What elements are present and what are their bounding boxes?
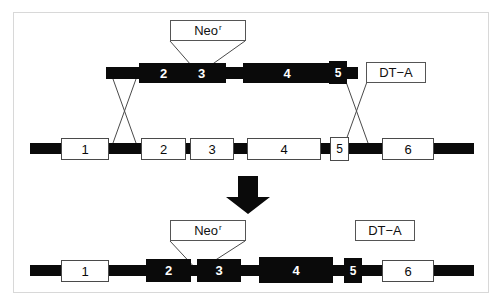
vector-exon-4-label: 4 [283,67,290,80]
dt-a-label-top: DT−A [379,65,413,80]
allele-exon-3-label: 3 [215,264,222,277]
locus-exon-1: 1 [61,138,109,160]
allele-exon-2-label: 2 [165,264,172,277]
allele-exon-6-label: 6 [404,264,411,279]
vector-exon-3-label: 3 [198,67,205,80]
neo-label-top: Neo [194,23,218,38]
locus-exon-3: 3 [190,138,234,160]
vector-exon-5: 5 [329,61,347,84]
locus-exon-2-label: 2 [160,142,167,157]
neo-superscript-bottom: r [219,223,222,232]
vector-exon-5-label: 5 [335,67,342,79]
vector-exon-2-label: 2 [160,67,167,80]
allele-exon-3: 3 [197,259,241,282]
dt-a-label-bottom: DT−A [368,223,402,238]
neo-cassette-box-bottom: Neor [170,220,246,241]
dt-a-box-top: DT−A [366,62,426,83]
locus-exon-5-label: 5 [336,142,343,156]
gene-targeting-figure: Neor 2 3 4 5 DT−A 1 2 [0,0,503,307]
allele-exon-2: 2 [146,259,191,282]
allele-exon-1: 1 [61,260,109,282]
locus-exon-2: 2 [141,138,186,160]
vector-exon-3: 3 [177,63,226,83]
neo-superscript-top: r [219,23,222,32]
dt-a-box-bottom: DT−A [355,220,415,241]
allele-exon-4: 4 [259,257,333,283]
allele-exon-4-label: 4 [292,264,299,277]
locus-exon-4-label: 4 [280,142,287,157]
neo-cassette-box-top: Neor [170,20,246,41]
neo-label-bottom: Neo [194,223,218,238]
vector-exon-4: 4 [243,63,331,83]
locus-exon-1-label: 1 [81,142,88,157]
locus-exon-6-label: 6 [404,142,411,157]
locus-exon-6: 6 [382,138,434,160]
allele-exon-6: 6 [382,260,434,282]
allele-exon-5-label: 5 [350,265,357,277]
locus-exon-3-label: 3 [208,142,215,157]
allele-exon-5: 5 [344,258,362,283]
locus-exon-5: 5 [330,137,349,161]
allele-exon-1-label: 1 [81,264,88,279]
locus-exon-4: 4 [247,138,321,160]
